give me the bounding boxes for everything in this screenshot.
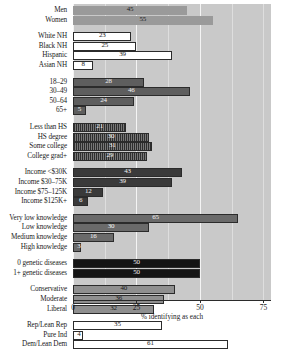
x-axis-tick-label: 75 [260,303,268,312]
y-axis-label: Very low knowledge [9,214,67,223]
bar-row: 24 [73,97,271,106]
bar-value-label: 31 [109,141,116,150]
bar-row: 5 [73,106,271,115]
x-axis-title: % identifying as each [73,313,271,322]
y-axis-label: Income $75–125K [15,188,67,197]
bar-value-label: 16 [90,232,97,241]
y-axis-label: 0 genetic diseases [17,259,67,268]
bar-row: 30 [73,223,271,232]
bar-row: 8 [73,61,271,70]
y-axis-label: 1+ genetic diseases [13,269,67,278]
y-axis-label: 65+ [56,106,67,115]
bar-row: 16 [73,233,271,242]
y-axis-label: Women [45,16,67,25]
y-axis-label: Asian NH [39,61,67,70]
y-axis-label: Income <$30K [25,168,67,177]
bar-row: 25 [73,42,271,51]
bar-value-label: 46 [128,86,135,95]
bar-value-label: 8 [81,60,84,69]
bar-row: 40 [73,285,271,294]
bar-row: 35 [73,321,271,330]
bar-row: 6 [73,197,271,206]
bar-value-label: 43 [124,167,131,176]
y-axis-label: High knowledge [21,243,67,252]
y-axis-label: 18–29 [50,78,67,87]
bar-value-label: 29 [106,151,113,160]
y-axis-label: 30–49 [50,87,67,96]
bar-value-label: 24 [100,96,107,105]
bar-row: 39 [73,51,271,60]
bar-value-label: 3 [77,242,80,251]
bar-row: 4 [73,331,271,340]
y-axis-category-labels: MenWomenWhite NHBlack NHHispanicAsian NH… [0,4,70,300]
bar-value-label: 30 [108,222,115,231]
y-axis-label: Medium knowledge [11,233,67,242]
bar-row: 28 [73,78,271,87]
y-axis-label: 50–64 [50,97,67,106]
bar-value-label: 55 [139,15,146,24]
bar-value-label: 6 [79,196,82,205]
bar-row: 61 [73,340,271,349]
x-axis-tick-label: 0 [71,303,75,312]
y-axis-label: HS degree [38,133,67,142]
bar-value-label: 39 [119,177,126,186]
bar-row: 31 [73,142,271,151]
bar-value-label: 40 [120,284,127,293]
bar-row: 39 [73,178,271,187]
y-axis-label: Less than HS [30,123,67,132]
y-axis-label: Dem/Lean Dem [22,340,67,349]
x-axis-tick-label: 25 [133,303,141,312]
y-axis-label: Black NH [39,42,67,51]
y-axis-label: Low knowledge [22,223,67,232]
bar-row: 21 [73,123,271,132]
bar-value-label: 21 [96,122,103,131]
y-axis-label: Moderate [40,295,67,304]
bar-value-label: 25 [101,41,108,50]
y-axis-label: Liberal [47,305,67,314]
bar-row: 3 [73,243,271,252]
bar-value-label: 65 [152,213,159,222]
bar-row: 30 [73,133,271,142]
y-axis-label: Pure Ind [43,331,67,340]
bar-value-label: 61 [147,339,154,348]
bar-value-label: 30 [108,132,115,141]
bar-row: 50 [73,269,271,278]
y-axis-label: White NH [38,32,67,41]
bar-row: 43 [73,168,271,177]
y-axis-label: Some college [29,142,67,151]
plot-area: 4555232539828462452130312943391266530163… [73,4,271,300]
y-axis-label: Conservative [30,285,67,294]
bar-value-label: 45 [127,5,134,14]
bar-value-label: 50 [133,268,140,277]
bar-row: 55 [73,16,271,25]
x-axis: 0255075 [73,300,271,312]
bar-value-label: 23 [99,31,106,40]
bar-value-label: 50 [133,258,140,267]
bar-value-label: 12 [85,187,92,196]
bar-row: 12 [73,188,271,197]
bar-row: 50 [73,259,271,268]
bar-value-label: 4 [77,330,80,339]
y-axis-label: Rep/Lean Rep [27,321,67,330]
y-axis-label: Income $125K+ [21,197,67,206]
y-axis-label: College grad+ [27,152,67,161]
y-axis-label: Income $30–75K [18,178,67,187]
bar-value-label: 39 [119,50,126,59]
bar-row: 65 [73,214,271,223]
bar-rows: 4555232539828462452130312943391266530163… [73,4,271,300]
bar-value-label: 28 [105,77,112,86]
y-axis-label: Men [54,6,67,15]
bar-row: 29 [73,152,271,161]
y-axis-label: Hispanic [42,51,67,60]
bar-value-label: 5 [78,105,81,114]
x-axis-tick-label: 50 [196,303,204,312]
bar-row: 45 [73,6,271,15]
